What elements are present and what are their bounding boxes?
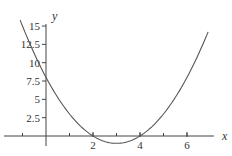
- curve-layer: [20, 20, 208, 143]
- x-tick-label: 6: [184, 139, 190, 151]
- y-tick-label: 5: [35, 93, 41, 105]
- x-axis-label: x: [221, 129, 228, 143]
- x-tick-label: 2: [90, 139, 96, 151]
- parabola-curve: [20, 20, 208, 143]
- parabola-chart: 2462.557.51012.515 x y: [0, 0, 232, 156]
- y-axis-label: y: [51, 9, 58, 23]
- y-tick-label: 2.5: [26, 112, 40, 124]
- x-tick-label: 4: [137, 139, 143, 151]
- y-tick-label: 7.5: [26, 75, 40, 87]
- y-tick-label: 15: [29, 20, 41, 32]
